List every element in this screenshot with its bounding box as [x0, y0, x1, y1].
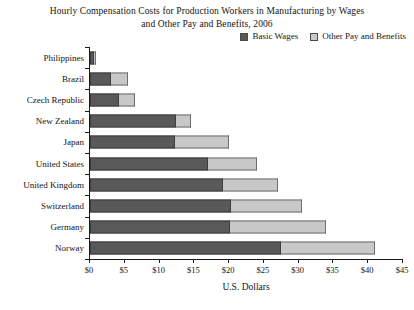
bar-row: United States — [0, 153, 414, 174]
bar-segment-other-pay-and-benefits — [208, 157, 257, 170]
x-axis-tick-label: $10 — [152, 265, 165, 275]
bar-segment-other-pay-and-benefits — [230, 221, 327, 234]
x-axis-tick — [367, 259, 368, 263]
x-axis-tick-label: $0 — [85, 265, 94, 275]
bar-rows: PhilippinesBrazilCzech RepublicNew Zeala… — [0, 47, 414, 259]
bar-row: Czech Republic — [0, 89, 414, 110]
bar-row: Philippines — [0, 47, 414, 68]
chart-legend: Basic Wages Other Pay and Benefits — [240, 31, 406, 42]
bar-segment-basic-wages — [90, 136, 175, 149]
bar-segment-basic-wages — [90, 178, 223, 191]
stacked-bar — [90, 93, 135, 106]
bar-segment-other-pay-and-benefits — [223, 178, 278, 191]
bar-row: United Kingdom — [0, 174, 414, 195]
bar-segment-other-pay-and-benefits — [176, 115, 191, 128]
x-axis-title: U.S. Dollars — [89, 282, 403, 293]
bar-segment-basic-wages — [90, 221, 230, 234]
bar-row: New Zealand — [0, 111, 414, 132]
stacked-bar — [90, 178, 278, 191]
y-axis-tick — [85, 217, 90, 218]
y-axis-label: Switzerland — [0, 200, 84, 211]
y-axis-label: Japan — [0, 137, 84, 148]
x-axis-tick-label: $5 — [120, 265, 129, 275]
bar-segment-other-pay-and-benefits — [281, 242, 376, 255]
y-axis-tick — [85, 238, 90, 239]
x-axis-tick-label: $45 — [396, 265, 409, 275]
y-axis-label: Brazil — [0, 73, 84, 84]
y-axis-tick — [85, 153, 90, 154]
bar-row: Japan — [0, 132, 414, 153]
y-axis-tick — [85, 174, 90, 175]
x-axis-tick — [298, 259, 299, 263]
y-axis-tick — [85, 89, 90, 90]
x-axis-tick-label: $15 — [187, 265, 200, 275]
stacked-bar — [90, 115, 191, 128]
y-axis-label: Norway — [0, 243, 84, 254]
chart-title: Hourly Compensation Costs for Production… — [20, 5, 394, 30]
x-axis-tick — [402, 259, 403, 263]
y-axis-label: Germany — [0, 222, 84, 233]
x-axis-tick — [124, 259, 125, 263]
bar-segment-basic-wages — [90, 72, 111, 85]
bar-segment-basic-wages — [90, 115, 176, 128]
y-axis-tick — [85, 47, 90, 48]
bar-row: Norway — [0, 238, 414, 259]
stacked-bar — [90, 221, 326, 234]
bar-segment-basic-wages — [90, 93, 119, 106]
bar-segment-basic-wages — [90, 157, 208, 170]
y-axis-tick — [85, 195, 90, 196]
bar-segment-other-pay-and-benefits — [111, 72, 128, 85]
y-axis-tick — [85, 68, 90, 69]
chart-title-line-1: Hourly Compensation Costs for Production… — [20, 5, 394, 18]
x-axis-tick-label: $35 — [326, 265, 339, 275]
stacked-bar — [90, 136, 229, 149]
stacked-bar — [90, 242, 375, 255]
y-axis-tick — [85, 132, 90, 133]
legend-swatch-other-pay-and-benefits — [310, 33, 318, 41]
bar-segment-basic-wages — [90, 199, 231, 212]
legend-label-basic-wages: Basic Wages — [252, 31, 298, 42]
x-axis-tick — [263, 259, 264, 263]
bar-segment-basic-wages — [90, 242, 281, 255]
x-axis-tick — [228, 259, 229, 263]
x-axis-tick-label: $20 — [222, 265, 235, 275]
plot-area: PhilippinesBrazilCzech RepublicNew Zeala… — [0, 47, 414, 267]
bar-row: Germany — [0, 217, 414, 238]
x-axis-tick-label: $25 — [257, 265, 270, 275]
x-axis-tick — [159, 259, 160, 263]
legend-item-basic-wages: Basic Wages — [240, 31, 298, 42]
y-axis-label: New Zealand — [0, 116, 84, 127]
y-axis-label: Philippines — [0, 52, 84, 63]
bar-row: Switzerland — [0, 195, 414, 216]
y-axis-label: United Kingdom — [0, 179, 84, 190]
y-axis-label: United States — [0, 158, 84, 169]
stacked-bar — [90, 72, 128, 85]
legend-label-other-pay-and-benefits: Other Pay and Benefits — [322, 31, 406, 42]
x-axis-tick-label: $30 — [291, 265, 304, 275]
legend-item-other-pay-and-benefits: Other Pay and Benefits — [310, 31, 406, 42]
y-axis-tick — [85, 111, 90, 112]
stacked-bar — [90, 157, 257, 170]
bar-segment-other-pay-and-benefits — [175, 136, 229, 149]
stacked-bar — [90, 199, 302, 212]
x-axis-tick — [332, 259, 333, 263]
stacked-bar — [90, 51, 96, 64]
x-axis-tick — [193, 259, 194, 263]
legend-swatch-basic-wages — [240, 33, 248, 41]
x-axis-tick — [89, 259, 90, 263]
bar-segment-other-pay-and-benefits — [94, 51, 95, 64]
bar-segment-other-pay-and-benefits — [231, 199, 303, 212]
x-axis-tick-label: $40 — [361, 265, 374, 275]
chart-figure: Hourly Compensation Costs for Production… — [0, 0, 414, 310]
chart-title-line-2: and Other Pay and Benefits, 2006 — [20, 18, 394, 31]
bar-segment-other-pay-and-benefits — [119, 93, 136, 106]
y-axis-label: Czech Republic — [0, 94, 84, 105]
bar-row: Brazil — [0, 68, 414, 89]
